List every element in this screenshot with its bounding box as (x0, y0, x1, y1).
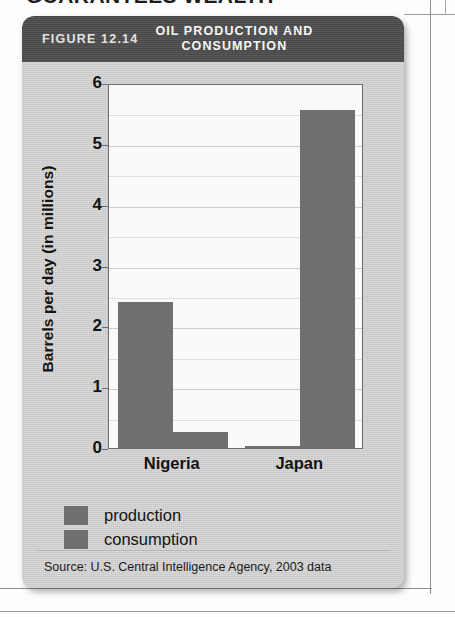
y-axis-label: Barrels per day (in millions) (39, 139, 57, 399)
legend-item-production: production (64, 506, 404, 525)
figure-title: OIL PRODUCTION AND CONSUMPTION (155, 24, 313, 54)
y-tick-3: 3 (76, 256, 102, 276)
y-axis-tick-labels: 0123456 (72, 84, 102, 449)
figure-number-label: FIGURE 12.14 (42, 32, 138, 46)
figure-header-band: FIGURE 12.14 OIL PRODUCTION AND CONSUMPT… (22, 16, 404, 62)
figure-title-line-2: CONSUMPTION (155, 39, 313, 54)
y-tick-2: 2 (76, 316, 102, 336)
bar-nigeria-consumption (173, 432, 228, 448)
bar-nigeria-production (118, 302, 173, 448)
scanned-page-background: GUARANTEES WEALTH FIGURE 12.14 OIL PRODU… (0, 0, 455, 617)
y-tick-0: 0 (76, 438, 102, 458)
x-tick-japan: Japan (236, 454, 364, 473)
y-tick-mark (102, 449, 108, 450)
plot-area (108, 84, 363, 449)
bar-japan-production (245, 446, 300, 448)
chart-area: Barrels per day (in millions) 0123456 Ni… (22, 62, 404, 542)
legend-label-consumption: consumption (104, 530, 198, 549)
legend-item-consumption: consumption (64, 530, 404, 549)
y-tick-mark (102, 267, 108, 268)
legend-label-production: production (104, 506, 181, 525)
figure-title-line-1: OIL PRODUCTION AND (155, 24, 313, 39)
y-tick-4: 4 (76, 195, 102, 215)
y-tick-6: 6 (76, 73, 102, 93)
x-tick-nigeria: Nigeria (108, 454, 236, 473)
y-tick-mark (102, 388, 108, 389)
legend-swatch-production (64, 506, 88, 525)
y-tick-mark (102, 206, 108, 207)
page-rule-right-short (445, 0, 446, 14)
source-text: Source: U.S. Central Intelligence Agency… (44, 560, 331, 574)
source-divider (36, 550, 390, 551)
y-tick-5: 5 (76, 134, 102, 154)
y-tick-mark (102, 327, 108, 328)
cropped-page-headline: GUARANTEES WEALTH (26, 0, 386, 4)
chart-legend: productionconsumption (22, 506, 404, 554)
page-rule-bottom-outer (0, 611, 455, 612)
page-rule-right (430, 0, 431, 594)
bar-japan-consumption (300, 110, 355, 448)
y-tick-1: 1 (76, 377, 102, 397)
page-rule-bottom (0, 588, 432, 589)
y-tick-mark (102, 84, 108, 85)
legend-swatch-consumption (64, 530, 88, 549)
figure-card: FIGURE 12.14 OIL PRODUCTION AND CONSUMPT… (22, 16, 404, 588)
y-tick-mark (102, 145, 108, 146)
